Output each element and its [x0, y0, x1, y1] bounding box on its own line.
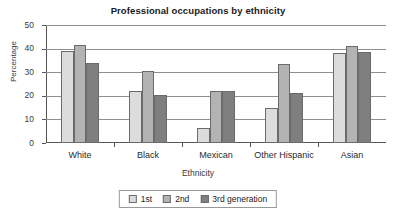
x-category-label: Asian — [302, 150, 396, 160]
x-tick-mark — [318, 143, 319, 147]
bar — [265, 108, 278, 143]
bar — [333, 53, 346, 143]
bar — [346, 46, 359, 143]
legend-swatch-icon — [129, 195, 137, 203]
y-tick-label: 30 — [6, 68, 34, 77]
bar — [290, 93, 303, 143]
bar-series-layer — [46, 25, 386, 143]
bar — [74, 45, 87, 143]
bar — [86, 63, 99, 143]
bar — [61, 51, 74, 143]
y-tick-label: 0 — [6, 139, 34, 148]
legend-label: 2nd — [175, 194, 189, 204]
y-tick-label: 10 — [6, 115, 34, 124]
plot-area: 01020304050 — [46, 25, 386, 143]
bar — [222, 91, 235, 143]
bar — [278, 64, 291, 143]
y-tick-label: 40 — [6, 44, 34, 53]
x-tick-mark — [250, 143, 251, 147]
chart-container: Professional occupations by ethnicity Pe… — [0, 0, 396, 224]
y-axis-title: Percentage — [9, 22, 18, 102]
bar — [129, 91, 142, 143]
chart-legend: 1st2nd3rd generation — [119, 190, 277, 208]
bar — [210, 91, 223, 143]
y-tick-label: 20 — [6, 91, 34, 100]
bar — [197, 128, 210, 143]
legend-label: 1st — [141, 194, 152, 204]
legend-entry[interactable]: 1st — [129, 194, 152, 204]
legend-swatch-icon — [163, 195, 171, 203]
x-axis-title: Ethnicity — [0, 168, 396, 178]
x-tick-mark — [182, 143, 183, 147]
legend-entry[interactable]: 2nd — [163, 194, 189, 204]
chart-title: Professional occupations by ethnicity — [0, 5, 396, 16]
bar — [142, 71, 155, 143]
y-tick-mark — [42, 143, 46, 144]
x-tick-mark — [114, 143, 115, 147]
legend-label: 3rd generation — [212, 194, 267, 204]
legend-entry[interactable]: 3rd generation — [200, 194, 267, 204]
bar — [154, 95, 167, 143]
bar — [358, 52, 371, 143]
legend-swatch-icon — [200, 195, 208, 203]
y-tick-label: 50 — [6, 21, 34, 30]
